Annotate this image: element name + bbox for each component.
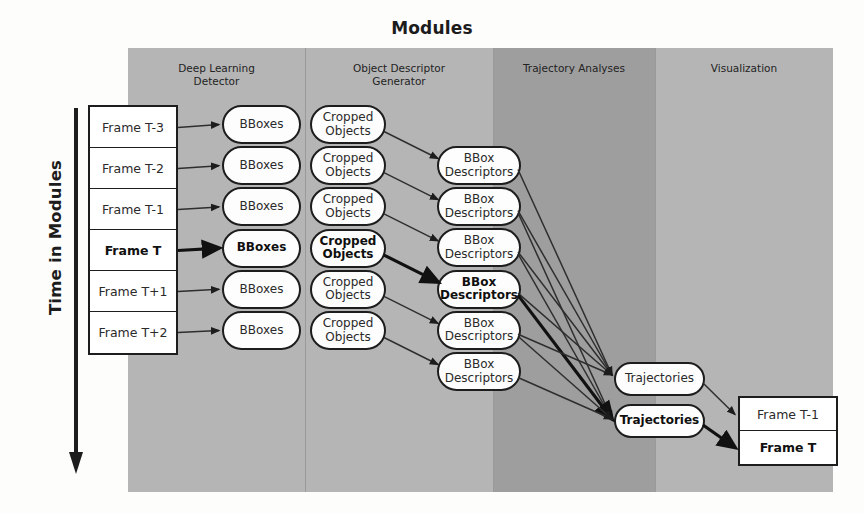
column-header-line1: Object Descriptor [353, 62, 445, 74]
bbox-descriptors-node-line2: Descriptors [445, 248, 514, 262]
trajectories-node[interactable]: Trajectories [614, 362, 705, 396]
frame-item[interactable]: Frame T-3 [90, 107, 176, 148]
column-header-trajectory-analyses: Trajectory Analyses [493, 62, 655, 75]
bbox-descriptors-node[interactable]: BBoxDescriptors [437, 270, 521, 309]
bbox-descriptors-node-line1: BBox [464, 234, 495, 248]
frame-item[interactable]: Frame T+1 [90, 271, 176, 312]
column-header-object-descriptor-generator: Object DescriptorGenerator [305, 62, 493, 88]
bboxes-node[interactable]: BBoxes [222, 187, 301, 226]
bboxes-node[interactable]: BBoxes [222, 146, 301, 185]
cropped-objects-node[interactable]: CroppedObjects [310, 270, 386, 309]
bboxes-node-line1: BBoxes [240, 118, 284, 132]
bboxes-node[interactable]: BBoxes [222, 311, 301, 350]
frame-item[interactable]: Frame T-2 [90, 148, 176, 189]
bbox-descriptors-node[interactable]: BBoxDescriptors [437, 352, 521, 391]
cropped-objects-node-line1: Cropped [323, 317, 374, 331]
frame-item[interactable]: Frame T+2 [90, 312, 176, 353]
column-header-visualization: Visualization [655, 62, 833, 75]
cropped-objects-node-line2: Objects [325, 207, 370, 221]
bbox-descriptors-node-line1: BBox [464, 152, 495, 166]
frame-item[interactable]: Frame T-1 [740, 398, 836, 431]
bbox-descriptors-node-line2: Descriptors [440, 289, 518, 303]
bboxes-node-line1: BBoxes [237, 241, 287, 255]
frame-item[interactable]: Frame T [90, 230, 176, 271]
bbox-descriptors-node[interactable]: BBoxDescriptors [437, 146, 521, 185]
bboxes-node-line1: BBoxes [240, 283, 284, 297]
column-header-line2: Generator [372, 75, 425, 87]
column-header-deep-learning-detector: Deep LearningDetector [128, 62, 305, 88]
bbox-descriptors-node[interactable]: BBoxDescriptors [437, 187, 521, 226]
time-axis-label: Time in Modules [46, 123, 65, 353]
cropped-objects-node-line1: Cropped [323, 193, 374, 207]
cropped-objects-node[interactable]: CroppedObjects [310, 229, 386, 268]
bboxes-node-line1: BBoxes [240, 200, 284, 214]
frame-item[interactable]: Frame T [740, 431, 836, 464]
cropped-objects-node-line2: Objects [325, 166, 370, 180]
cropped-objects-node[interactable]: CroppedObjects [310, 105, 386, 144]
cropped-objects-node[interactable]: CroppedObjects [310, 146, 386, 185]
bboxes-node[interactable]: BBoxes [222, 229, 301, 268]
bbox-descriptors-node-line1: BBox [464, 193, 495, 207]
bboxes-node[interactable]: BBoxes [222, 105, 301, 144]
trajectories-label: Trajectories [620, 414, 700, 428]
bbox-descriptors-node-line2: Descriptors [445, 166, 514, 180]
cropped-objects-node-line2: Objects [325, 125, 370, 139]
bbox-descriptors-node[interactable]: BBoxDescriptors [437, 228, 521, 267]
bboxes-node-line1: BBoxes [240, 159, 284, 173]
trajectories-label: Trajectories [625, 372, 694, 386]
column-header-line1: Deep Learning [178, 62, 255, 74]
bbox-descriptors-node-line2: Descriptors [445, 207, 514, 221]
bbox-descriptors-node-line1: BBox [462, 276, 496, 290]
column-divider [305, 48, 306, 492]
bboxes-node-line1: BBoxes [240, 324, 284, 338]
frame-item[interactable]: Frame T-1 [90, 189, 176, 230]
trajectories-node[interactable]: Trajectories [614, 404, 705, 438]
bboxes-node[interactable]: BBoxes [222, 270, 301, 309]
cropped-objects-node-line2: Objects [325, 289, 370, 303]
page-title: Modules [0, 18, 864, 38]
bbox-descriptors-node-line1: BBox [464, 358, 495, 372]
cropped-objects-node-line2: Objects [325, 331, 370, 345]
cropped-objects-node[interactable]: CroppedObjects [310, 187, 386, 226]
output-frame-stack: Frame T-1Frame T [738, 396, 838, 466]
cropped-objects-node-line1: Cropped [323, 111, 374, 125]
cropped-objects-node-line2: Objects [322, 248, 373, 262]
bbox-descriptors-node-line1: BBox [464, 317, 495, 331]
column-header-line2: Detector [194, 75, 240, 87]
pipeline-diagram: Modules Deep LearningDetectorObject Desc… [0, 0, 864, 513]
bbox-descriptors-node-line2: Descriptors [445, 372, 514, 386]
column-header-line1: Visualization [711, 62, 777, 74]
cropped-objects-node-line1: Cropped [323, 152, 374, 166]
bbox-descriptors-node-line2: Descriptors [445, 330, 514, 344]
cropped-objects-node[interactable]: CroppedObjects [310, 311, 386, 350]
input-frame-stack: Frame T-3Frame T-2Frame T-1Frame TFrame … [88, 105, 178, 355]
column-header-line1: Trajectory Analyses [523, 62, 625, 74]
cropped-objects-node-line1: Cropped [320, 235, 377, 249]
bbox-descriptors-node[interactable]: BBoxDescriptors [437, 311, 521, 350]
cropped-objects-node-line1: Cropped [323, 276, 374, 290]
